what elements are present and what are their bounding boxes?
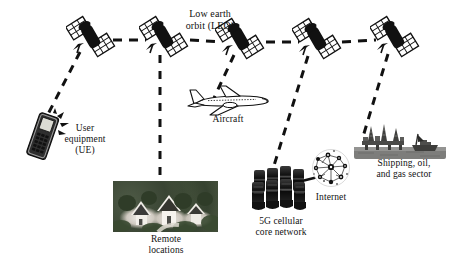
satellite-5 <box>370 14 420 64</box>
label-low-earth-orbit: Low earth orbit (LEO) <box>170 8 250 31</box>
core-network <box>250 166 308 220</box>
internet-globe-icon <box>308 147 354 193</box>
oil-rig-icon <box>354 122 446 160</box>
label-aircraft: Aircraft <box>192 114 264 125</box>
link-satellite-4-core-network <box>272 56 308 172</box>
label-remote-locations: Remote locations <box>130 234 202 256</box>
satellite-icon <box>292 16 342 62</box>
label-shipping-oil-gas: Shipping, oil, and gas sector <box>362 158 446 180</box>
remote-locations-photo <box>113 181 218 232</box>
satellite-icon <box>66 14 116 60</box>
server-rack-icon <box>250 166 308 216</box>
diagram-canvas: Low earth orbit (LEO) <box>0 0 450 257</box>
village-photo-icon <box>113 181 218 232</box>
internet <box>308 147 354 197</box>
label-user-equipment: User equipment (UE) <box>52 123 118 156</box>
satellite-icon <box>370 14 420 60</box>
airplane-icon <box>186 82 274 118</box>
label-core-network: 5G cellular core network <box>240 216 322 238</box>
label-internet: Internet <box>303 192 359 203</box>
satellite-1 <box>66 14 116 64</box>
satellite-4 <box>292 16 342 66</box>
